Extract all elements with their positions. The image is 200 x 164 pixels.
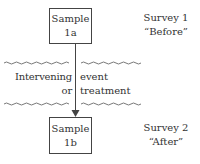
sample-1b-box: Sample 1b [49, 117, 92, 154]
survey-1-title: Survey 1 [138, 11, 194, 25]
arrowhead-icon [72, 110, 80, 117]
intervening-right-text: event treatment [80, 70, 131, 98]
sample-1b-line2: 1b [64, 136, 77, 150]
survey-2-label: Survey 2 “After” [138, 121, 194, 149]
sample-1b-line1: Sample [52, 122, 90, 136]
sample-1a-line2: 1a [64, 26, 76, 40]
survey-2-title: Survey 2 [138, 121, 194, 135]
sample-1a-box: Sample 1a [49, 8, 92, 44]
survey-1-subtitle: “Before” [138, 25, 194, 39]
treatment-word: treatment [80, 84, 131, 98]
intervening-left-text: Intervening or [15, 70, 72, 98]
sample-1a-line1: Sample [52, 12, 90, 26]
wavy-line-bottom-right [81, 103, 141, 105]
or-word: or [15, 84, 72, 98]
event-word: event [80, 70, 131, 84]
intervening-word: Intervening [15, 70, 72, 84]
survey-1-label: Survey 1 “Before” [138, 11, 194, 39]
wavy-line-top-left [4, 62, 69, 64]
wavy-line-bottom-left [4, 103, 69, 105]
survey-2-subtitle: “After” [138, 135, 194, 149]
wavy-line-top-right [81, 62, 141, 64]
